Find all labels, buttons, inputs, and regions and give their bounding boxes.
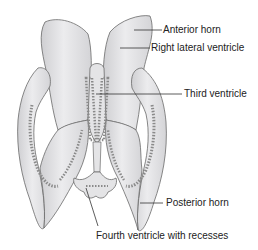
label-fourth-ventricle: Fourth ventricle with recesses [96, 230, 228, 242]
ventricle-illustration [0, 0, 258, 250]
label-anterior-horn: Anterior horn [163, 24, 221, 36]
label-third-ventricle: Third ventricle [184, 88, 247, 100]
ventricle-diagram: Anterior horn Right lateral ventricle Th… [0, 0, 258, 250]
left-lateral-ventricle [18, 20, 92, 229]
label-posterior-horn: Posterior horn [166, 197, 229, 209]
label-right-lateral-ventricle: Right lateral ventricle [151, 42, 244, 54]
